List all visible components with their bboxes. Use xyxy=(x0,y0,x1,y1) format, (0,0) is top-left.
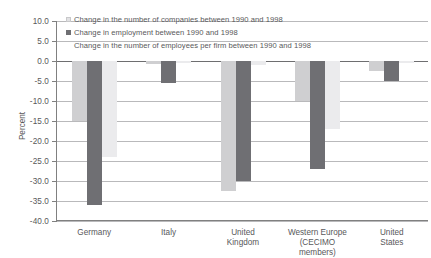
x-axis-tick-label: UnitedKingdom xyxy=(206,228,280,248)
y-axis-tick xyxy=(52,21,57,22)
legend-swatch-companies xyxy=(66,17,71,22)
y-axis-title: Percent xyxy=(18,112,27,140)
bar xyxy=(325,61,340,129)
y-axis-tick-label: 10.0 xyxy=(33,17,49,26)
bar xyxy=(295,61,310,101)
y-axis-tick xyxy=(52,201,57,202)
x-axis-tick-label-line: Germany xyxy=(57,228,131,238)
x-axis-tick-label-line: Kingdom xyxy=(206,238,280,248)
y-axis-tick-label: -5.0 xyxy=(34,77,49,86)
legend-item-employment: Change in employment between 1990 and 19… xyxy=(66,27,311,38)
bar xyxy=(236,61,251,181)
y-axis-tick xyxy=(52,221,57,222)
y-axis-tick-label: -10.0 xyxy=(30,97,49,106)
y-axis-tick xyxy=(52,101,57,102)
x-axis-tick-label: Germany xyxy=(57,228,131,238)
bar xyxy=(72,61,87,121)
bar xyxy=(251,61,266,65)
y-axis-tick-label: 0.0 xyxy=(37,57,49,66)
legend-swatch-employees-per-firm xyxy=(66,43,71,48)
y-axis-tick-label: -30.0 xyxy=(30,177,49,186)
x-axis-tick-label: Italy xyxy=(131,228,205,238)
y-axis-tick-label: -25.0 xyxy=(30,157,49,166)
bar-group xyxy=(369,21,414,220)
y-axis-tick xyxy=(52,121,57,122)
bar xyxy=(161,61,176,83)
y-axis-tick xyxy=(52,161,57,162)
x-axis-tick-label-line: United xyxy=(355,228,429,238)
y-axis-tick-label: -15.0 xyxy=(30,117,49,126)
y-axis-tick-label: -35.0 xyxy=(30,197,49,206)
legend-label-companies: Change in the number of companies betwee… xyxy=(74,15,283,24)
bar xyxy=(369,61,384,71)
x-axis-tick-label-line: Western Europe xyxy=(280,228,354,238)
bar xyxy=(146,61,161,64)
gridline xyxy=(57,221,428,222)
legend-swatch-employment xyxy=(66,30,71,35)
y-axis-tick-label: -20.0 xyxy=(30,137,49,146)
legend-label-employees-per-firm: Change in the number of employees per fi… xyxy=(74,41,311,50)
x-axis-tick-label-line: United xyxy=(206,228,280,238)
x-axis-tick-label-line: Italy xyxy=(131,228,205,238)
x-axis-tick-label-line: (CECIMO members) xyxy=(280,238,354,258)
y-axis-tick-label: 5.0 xyxy=(37,37,49,46)
x-axis-tick-label-line: States xyxy=(355,238,429,248)
y-axis-tick xyxy=(52,81,57,82)
bar xyxy=(310,61,325,169)
x-axis-tick-label: Western Europe(CECIMO members) xyxy=(280,228,354,258)
chart-legend: Change in the number of companies betwee… xyxy=(66,14,311,53)
y-axis-tick-label: -40.0 xyxy=(30,217,49,226)
legend-label-employment: Change in employment between 1990 and 19… xyxy=(74,28,238,37)
y-axis-tick xyxy=(52,41,57,42)
legend-item-employees-per-firm: Change in the number of employees per fi… xyxy=(66,40,311,51)
legend-item-companies: Change in the number of companies betwee… xyxy=(66,14,311,25)
bar xyxy=(399,61,414,63)
y-axis-tick xyxy=(52,61,57,62)
bar xyxy=(102,61,117,157)
bar xyxy=(384,61,399,81)
x-axis-tick-label: UnitedStates xyxy=(355,228,429,248)
y-axis-tick xyxy=(52,181,57,182)
bar xyxy=(176,61,191,63)
bar xyxy=(221,61,236,191)
y-axis-tick xyxy=(52,141,57,142)
bar xyxy=(87,61,102,205)
